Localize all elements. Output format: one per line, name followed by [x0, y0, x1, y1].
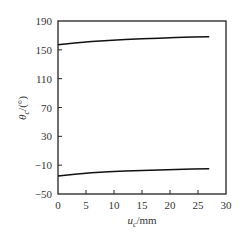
- x-tick-label: 10: [109, 199, 121, 211]
- plot-area: [58, 21, 226, 194]
- y-tick-label: 110: [36, 73, 53, 85]
- x-tick-label: 30: [221, 199, 233, 211]
- x-tick-label: 20: [165, 199, 177, 211]
- x-tick-label: 15: [137, 199, 149, 211]
- line-chart: 051015202530−50−103070110150190 uc/mm θc…: [0, 0, 244, 235]
- x-tick-label: 0: [55, 199, 61, 211]
- data-series: [58, 37, 209, 176]
- y-tick-label: 190: [36, 15, 53, 27]
- y-axis-label: θc/(°): [16, 96, 31, 120]
- series-line-upper: [58, 37, 209, 45]
- x-tick-label: 25: [193, 199, 205, 211]
- y-tick-label: −10: [35, 159, 53, 171]
- x-axis-label: uc/mm: [127, 214, 157, 229]
- y-tick-label: 30: [41, 130, 53, 142]
- y-tick-label: 150: [36, 44, 53, 56]
- y-tick-label: −50: [35, 188, 53, 200]
- series-line-lower: [58, 169, 209, 176]
- plot-border: [58, 21, 226, 194]
- y-tick-label: 70: [41, 102, 53, 114]
- x-tick-label: 5: [83, 199, 89, 211]
